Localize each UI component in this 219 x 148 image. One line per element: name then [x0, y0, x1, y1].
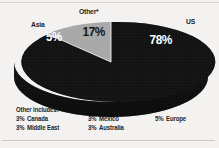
footnote-item-pct: 3% — [88, 124, 99, 131]
footnote-item-pct: 5% — [155, 115, 166, 122]
pie-label-us: US — [186, 17, 195, 26]
pie-label-asia: Asia — [31, 20, 45, 29]
footnote-item: 5%Europe — [155, 115, 186, 122]
footnote-item: 3%Middle East — [16, 124, 59, 131]
footnote-item-name: Middle East — [27, 124, 59, 131]
pie-label-other: Other* — [79, 7, 99, 16]
footnote-item-name: Mexico — [99, 115, 119, 122]
footnote-item: 3%Australia — [88, 124, 124, 131]
pie-value-asia: 5% — [46, 29, 62, 44]
footnote-item-pct: 3% — [16, 115, 27, 122]
footnote-item-name: Australia — [99, 124, 124, 131]
footnote-item: 3%Canada — [16, 115, 48, 122]
footnote-item-name: Europe — [166, 115, 186, 122]
footnote-item: 3%Mexico — [88, 115, 119, 122]
chart-page: Other* Asia US 5% 17% 78% Other includes… — [0, 0, 219, 148]
footnote-item-pct: 3% — [16, 124, 27, 131]
footnote-title: Other includes: — [16, 106, 191, 113]
footnote-item-name: Canada — [27, 115, 48, 122]
scan-rule-bottom — [2, 140, 215, 141]
pie-value-other: 17% — [83, 24, 105, 39]
footnote-item-pct: 3% — [88, 115, 99, 122]
pie-value-us: 78% — [150, 32, 172, 47]
footnote-block: Other includes: 3%Canada 3%Middle East 3… — [16, 106, 206, 115]
